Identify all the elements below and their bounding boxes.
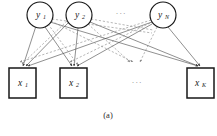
- node-yN-label: y: [157, 10, 163, 20]
- edge-dashed-y1-x2: [48, 24, 78, 65]
- node-x1[interactable]: x 1: [9, 68, 36, 98]
- bottom-layer-nodes: x 1 x 2 x K: [9, 68, 214, 98]
- node-xK[interactable]: x K: [187, 68, 214, 98]
- edge-dashed-yN-x2: [70, 23, 150, 62]
- node-y2-subscript: 2: [82, 14, 85, 20]
- node-yN[interactable]: y N: [150, 2, 176, 28]
- node-x2-label: x: [68, 78, 74, 88]
- node-x2-subscript: 2: [76, 82, 79, 88]
- node-y1-label: y: [35, 10, 41, 20]
- node-y1[interactable]: y 1: [27, 2, 53, 28]
- node-x1-subscript: 1: [25, 82, 28, 88]
- node-xK-rect[interactable]: [187, 68, 214, 98]
- node-x2-rect[interactable]: [60, 68, 87, 98]
- figure-caption: (a): [103, 110, 113, 120]
- figure-container: y 1 y 2 y N ··· x 1: [0, 0, 217, 136]
- edge-y1-x1: [23, 26, 36, 66]
- edge-group-solid: [23, 22, 200, 66]
- node-xK-label: x: [194, 78, 200, 88]
- node-y1-subscript: 1: [43, 14, 46, 20]
- node-y2[interactable]: y 2: [66, 2, 92, 28]
- node-x2[interactable]: x 2: [60, 68, 87, 98]
- node-x1-rect[interactable]: [9, 68, 36, 98]
- top-layer-nodes: y 1 y 2 y N: [27, 2, 176, 28]
- edge-yN-x2: [77, 24, 152, 66]
- edge-dashed-y2-right: [91, 19, 153, 30]
- bipartite-graph-diagram: y 1 y 2 y N ··· x 1: [0, 0, 217, 136]
- node-yN-circle[interactable]: [150, 2, 176, 28]
- node-y2-label: y: [74, 10, 80, 20]
- edge-yN-x1: [28, 22, 152, 66]
- node-x1-label: x: [17, 78, 23, 88]
- top-ellipsis: ···: [116, 8, 127, 18]
- bottom-ellipsis: ···: [132, 77, 143, 87]
